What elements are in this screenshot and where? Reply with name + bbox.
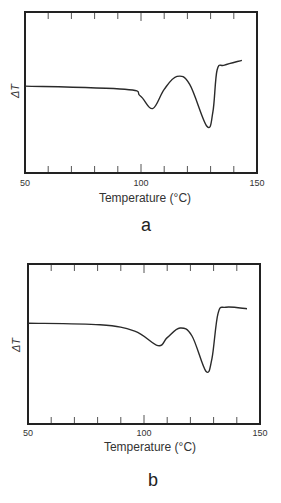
chart-panel-b: ΔT 50 100 150 Temperature (°C) b (0, 250, 281, 503)
chart-b-ticks (51, 264, 237, 424)
chart-b-x-axis-title: Temperature (°C) (104, 440, 196, 454)
chart-a-tick-150: 150 (249, 178, 264, 188)
chart-b-panel-label: b (148, 470, 158, 491)
chart-a-curve (25, 60, 242, 127)
chart-b-plot (0, 250, 281, 503)
chart-a-tick-50: 50 (20, 178, 30, 188)
chart-a-ticks (48, 12, 234, 173)
chart-a-x-axis-title: Temperature (°C) (99, 191, 191, 205)
chart-a-panel-label: a (141, 215, 151, 236)
chart-a-y-axis-label: ΔT (9, 84, 21, 98)
chart-panel-a: ΔT 50 100 150 Temperature (°C) a (0, 0, 281, 250)
chart-b-curve (28, 307, 247, 372)
chart-a-plot (0, 0, 281, 250)
chart-a-frame (25, 12, 257, 173)
chart-b-tick-50: 50 (23, 428, 33, 438)
chart-b-tick-100: 100 (136, 428, 151, 438)
chart-a-tick-100: 100 (133, 178, 148, 188)
chart-b-frame (28, 264, 260, 424)
chart-b-tick-150: 150 (252, 428, 267, 438)
chart-b-y-axis-label: ΔT (10, 338, 22, 352)
